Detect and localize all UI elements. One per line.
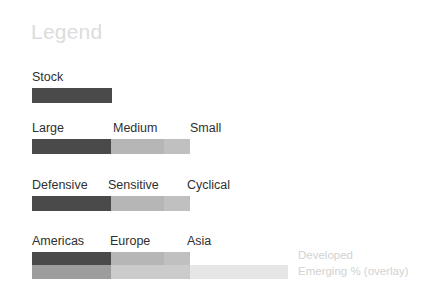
legend-seg-small bbox=[164, 139, 190, 154]
legend-seg-asia-emerging bbox=[190, 265, 288, 279]
legend-seg-sensitive bbox=[111, 196, 164, 211]
legend-label-americas: Americas bbox=[32, 234, 84, 249]
page-title: Legend bbox=[31, 19, 102, 45]
legend-label-europe: Europe bbox=[110, 234, 150, 249]
legend-bar-region-emerging bbox=[32, 265, 288, 279]
legend-bar-size bbox=[32, 139, 190, 154]
legend-row-style: Defensive Sensitive Cyclical bbox=[0, 178, 434, 193]
legend-label-cyclical: Cyclical bbox=[187, 178, 230, 193]
legend-label-asia: Asia bbox=[187, 234, 211, 249]
legend-label-defensive: Defensive bbox=[32, 178, 88, 193]
legend-bar-stock bbox=[32, 88, 112, 103]
legend-seg-americas-developed bbox=[32, 252, 111, 265]
legend-seg-europe-emerging bbox=[111, 265, 190, 279]
legend-seg-europe-developed bbox=[111, 252, 164, 265]
overlay-notes: Developed Emerging % (overlay) bbox=[298, 247, 434, 279]
overlay-note-developed: Developed bbox=[298, 247, 434, 263]
legend-seg-large bbox=[32, 139, 111, 154]
legend-label-sensitive: Sensitive bbox=[108, 178, 159, 193]
legend-label-medium: Medium bbox=[113, 121, 157, 136]
legend-label-stock: Stock bbox=[32, 70, 63, 85]
legend-seg-cyclical bbox=[164, 196, 190, 211]
legend-seg-asia-developed bbox=[164, 252, 190, 265]
legend-bar-style bbox=[32, 196, 190, 211]
legend-row-stock-labels: Stock bbox=[0, 70, 434, 85]
overlay-note-emerging: Emerging % (overlay) bbox=[298, 263, 434, 279]
legend-seg-medium bbox=[111, 139, 164, 154]
legend-seg-americas-emerging bbox=[32, 265, 111, 279]
legend-row-style-labels: Defensive Sensitive Cyclical bbox=[0, 178, 434, 193]
legend-row-stock: Stock bbox=[0, 70, 434, 85]
legend-label-small: Small bbox=[190, 121, 221, 136]
legend-row-size-labels: Large Medium Small bbox=[0, 121, 434, 136]
legend-seg-stock bbox=[32, 88, 112, 103]
legend-panel: Legend Stock Large Medium Small Defensiv… bbox=[0, 0, 434, 292]
legend-bar-region-developed bbox=[32, 252, 190, 265]
legend-seg-defensive bbox=[32, 196, 111, 211]
legend-label-large: Large bbox=[32, 121, 64, 136]
legend-row-size: Large Medium Small bbox=[0, 121, 434, 136]
